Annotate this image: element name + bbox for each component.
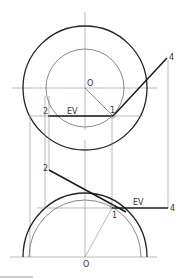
label-4-front: 4 <box>170 204 175 213</box>
label-4-top: 4 <box>169 53 174 62</box>
label-1-top: 1 <box>110 106 115 115</box>
label-ev-front: EV <box>133 198 144 207</box>
label-2-front: 2 <box>43 164 48 173</box>
label-o-front: O <box>83 260 89 269</box>
label-1-front: 1 <box>112 211 117 220</box>
label-2-top: 2 <box>43 107 48 116</box>
sphere-projection-diagram: O 1 2 4 EV 2 1 EV 4 O <box>0 0 184 279</box>
top-view: O 1 2 4 EV <box>12 12 174 150</box>
label-ev-top: EV <box>67 107 78 116</box>
front-view: 2 1 EV 4 O <box>10 140 175 269</box>
radius-o-to-1 <box>85 88 113 116</box>
label-o-top: O <box>87 79 93 88</box>
front-radius-o-to-1 <box>85 208 112 257</box>
line-1-to-4 <box>113 58 167 116</box>
